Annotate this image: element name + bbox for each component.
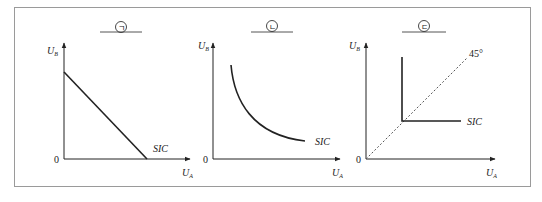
- panel-a-marker: ㄱ: [118, 24, 125, 33]
- panel-c-x-label: UA: [486, 167, 497, 179]
- panel-c-marker: ㄷ: [421, 23, 428, 32]
- panel-c-sic-label: SIC: [467, 116, 482, 127]
- panel-b-origin: 0: [203, 154, 208, 165]
- panel-c-sic-l-curve: [402, 57, 461, 121]
- panel-c-origin: 0: [356, 154, 361, 165]
- panel-b-sic-label: SIC: [315, 136, 330, 147]
- panel-a-origin: 0: [54, 154, 59, 165]
- panel-c-45-degree-line: [366, 58, 467, 159]
- panel-b-x-label: UA: [332, 167, 343, 179]
- panel-b: ㄴ UB UA 0 SIC: [198, 21, 343, 180]
- panel-a-x-label: UA: [182, 167, 193, 179]
- panel-a: ㄱ UB UA 0 SIC: [47, 22, 193, 180]
- panel-b-marker: ㄴ: [269, 23, 276, 32]
- panel-a-sic-label: SIC: [153, 143, 168, 154]
- panel-b-sic-curve: [231, 65, 305, 141]
- panel-b-y-label: UB: [198, 40, 209, 52]
- panel-a-y-label: UB: [47, 45, 58, 57]
- panel-a-sic-line: [64, 72, 147, 159]
- social-indifference-curves-figure: ㄱ UB UA 0 SIC ㄴ UB UA 0 SIC ㄷ UB UA 0 45…: [0, 0, 542, 202]
- panel-c-45-degree-label: 45°: [469, 48, 483, 59]
- panel-c-y-label: UB: [349, 40, 360, 52]
- panel-c: ㄷ UB UA 0 45° SIC: [349, 21, 497, 180]
